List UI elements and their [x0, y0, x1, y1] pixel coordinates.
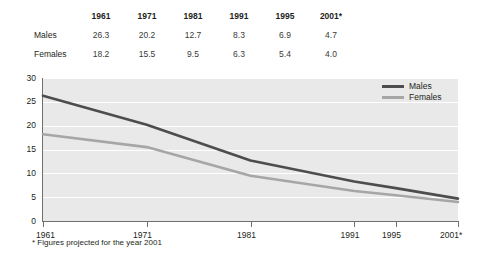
table-cell: 15.5 [124, 44, 170, 63]
values-table: 1961 1971 1981 1991 1995 2001* Males 26.… [0, 6, 354, 63]
series-line-males [43, 96, 458, 199]
table-col-header: 1995 [262, 6, 308, 25]
table-header-row: 1961 1971 1981 1991 1995 2001* [0, 6, 354, 25]
legend-label: Females [409, 92, 442, 103]
table-cell: 9.5 [170, 44, 216, 63]
line-chart: 30 25 20 15 10 5 0 1961 1971 1981 1991 1… [0, 70, 492, 230]
table-col-header: 1981 [170, 6, 216, 25]
table-cell: 6.3 [216, 44, 262, 63]
table-cell: 6.9 [262, 25, 308, 44]
table-header: 1961 1971 1981 1991 1995 2001* [0, 6, 354, 25]
series-line-females [43, 134, 458, 202]
legend-item-males: Males [382, 81, 442, 92]
table-col-header: 2001* [308, 6, 354, 25]
table-row-label: Males [0, 25, 78, 44]
table-cell: 4.7 [308, 25, 354, 44]
x-axis-tick-label: 2001* [440, 230, 462, 240]
data-table: 1961 1971 1981 1991 1995 2001* Males 26.… [0, 6, 492, 63]
table-cell: 5.4 [262, 44, 308, 63]
table-col-header: 1961 [78, 6, 124, 25]
table-cell: 26.3 [78, 25, 124, 44]
x-axis-tick-label: 1991 [341, 230, 360, 240]
chart-footnote: * Figures projected for the year 2001 [32, 238, 162, 247]
table-cell: 20.2 [124, 25, 170, 44]
legend-label: Males [409, 81, 432, 92]
legend-swatch-icon [382, 85, 404, 88]
table-row: Males 26.3 20.2 12.7 8.3 6.9 4.7 [0, 25, 354, 44]
table-col-header: 1971 [124, 6, 170, 25]
table-body: Males 26.3 20.2 12.7 8.3 6.9 4.7 Females… [0, 25, 354, 63]
chart-legend: Males Females [382, 81, 442, 103]
table-corner-cell [0, 6, 78, 25]
table-row-label: Females [0, 44, 78, 63]
legend-swatch-icon [382, 96, 404, 99]
table-cell: 8.3 [216, 25, 262, 44]
x-axis-tick-label: 1981 [237, 230, 256, 240]
table-row: Females 18.2 15.5 9.5 6.3 5.4 4.0 [0, 44, 354, 63]
table-cell: 18.2 [78, 44, 124, 63]
x-axis-tick-label: 1995 [382, 230, 401, 240]
table-col-header: 1991 [216, 6, 262, 25]
table-cell: 4.0 [308, 44, 354, 63]
table-cell: 12.7 [170, 25, 216, 44]
legend-item-females: Females [382, 92, 442, 103]
